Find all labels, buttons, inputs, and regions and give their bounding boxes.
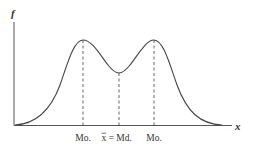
svg-text:x = Md.: x = Md.: [102, 133, 132, 143]
mode-right-label: Mo.: [146, 133, 162, 143]
y-axis-label: f: [11, 7, 16, 19]
x-axis-label: x: [234, 120, 241, 132]
mode-left-label: Mo.: [75, 133, 91, 143]
equals-median-text: = Md.: [106, 133, 132, 143]
bimodal-distribution-chart: f x Mo. x = Md. Mo.: [0, 0, 253, 155]
mean-median-label: x = Md.: [102, 133, 132, 143]
frequency-curve: [15, 40, 222, 125]
